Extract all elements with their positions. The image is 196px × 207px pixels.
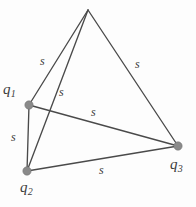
vertex-label-q2: q2 xyxy=(20,180,33,197)
vertex-label-q2-subscript: 2 xyxy=(28,186,33,197)
edge-label-q1-q3: s xyxy=(91,106,96,118)
edge-q1-q2 xyxy=(27,105,29,171)
figure-canvas xyxy=(0,0,196,207)
edge-label-apex-q3: s xyxy=(135,58,140,70)
edge-label-apex-q2: s xyxy=(59,86,64,98)
edge-label-q2-q3: s xyxy=(99,164,104,176)
vertex-dot-q1 xyxy=(25,101,33,109)
vertex-dot-q2 xyxy=(23,167,31,175)
vertex-label-q1: q1 xyxy=(3,82,16,99)
edge-apex-q2 xyxy=(27,10,88,171)
edge-label-apex-q1: s xyxy=(40,55,45,67)
vertex-label-q3: q3 xyxy=(170,157,183,174)
vertex-dot-q3 xyxy=(174,142,182,150)
vertex-label-q3-subscript: 3 xyxy=(178,163,183,174)
vertex-label-q3-base: q xyxy=(170,156,178,172)
vertex-label-q1-subscript: 1 xyxy=(11,88,16,99)
vertex-label-q2-base: q xyxy=(20,179,28,195)
tetrahedron-figure: s s s s s s q1 q2 q3 xyxy=(0,0,196,207)
vertex-label-q1-base: q xyxy=(3,81,11,97)
edge-label-q1-q2: s xyxy=(11,131,16,143)
edge-group xyxy=(27,10,178,171)
